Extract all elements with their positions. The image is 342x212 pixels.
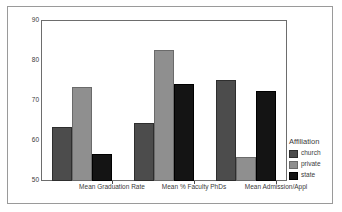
legend-item-state[interactable]: state bbox=[289, 172, 339, 180]
bar-private[interactable] bbox=[154, 50, 174, 181]
legend-swatch-icon bbox=[289, 172, 298, 180]
bar-group bbox=[205, 20, 287, 181]
legend-item-church[interactable]: church bbox=[289, 150, 339, 158]
y-tick-label: 60 bbox=[15, 137, 39, 144]
bar-private[interactable] bbox=[72, 87, 92, 181]
legend-swatch-icon bbox=[289, 161, 298, 169]
bar-church[interactable] bbox=[216, 80, 236, 181]
bar-state[interactable] bbox=[92, 154, 112, 181]
x-tick-label: Mean Admission/Appl bbox=[216, 184, 336, 191]
legend-item-private[interactable]: private bbox=[289, 161, 339, 169]
legend-item-label: church bbox=[301, 150, 321, 157]
legend-swatch-icon bbox=[289, 150, 298, 158]
bar-private[interactable] bbox=[236, 157, 256, 181]
legend: Affiliation church private state bbox=[289, 138, 339, 183]
y-tick-label: 90 bbox=[15, 17, 39, 24]
y-tick-label: 70 bbox=[15, 97, 39, 104]
y-tick-label: 50 bbox=[15, 177, 39, 184]
bar-group bbox=[123, 20, 205, 181]
legend-title: Affiliation bbox=[289, 138, 339, 146]
bar-group bbox=[41, 20, 123, 181]
bar-church[interactable] bbox=[134, 123, 154, 181]
legend-item-label: private bbox=[301, 161, 321, 168]
bars-layer bbox=[41, 20, 287, 181]
legend-item-label: state bbox=[301, 172, 315, 179]
y-tick-label: 80 bbox=[15, 57, 39, 64]
bar-state[interactable] bbox=[256, 91, 276, 181]
bar-church[interactable] bbox=[52, 127, 72, 181]
y-axis: 90 80 70 60 50 bbox=[12, 20, 39, 181]
bar-state[interactable] bbox=[174, 84, 194, 181]
chart-figure: 90 80 70 60 50 Mean Graduation Rate Mean… bbox=[0, 0, 342, 212]
